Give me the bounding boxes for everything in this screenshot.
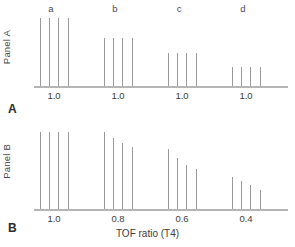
twitch-bar bbox=[104, 132, 105, 209]
twitch-bar bbox=[40, 18, 41, 86]
twitch-bar bbox=[168, 53, 169, 86]
x-tick-label: 1.0 bbox=[47, 91, 60, 101]
twitch-bar bbox=[104, 38, 105, 86]
twitch-bar bbox=[58, 132, 59, 209]
twitch-bar bbox=[49, 132, 50, 209]
twitch-bar bbox=[196, 169, 197, 209]
panel-a-axis-label: Panel A bbox=[2, 30, 12, 64]
twitch-bar bbox=[122, 38, 123, 86]
panel-a-plot-area bbox=[34, 18, 288, 86]
twitch-bar bbox=[177, 53, 178, 86]
group-letter-d: d bbox=[240, 4, 245, 14]
x-tick-label: 1.0 bbox=[239, 91, 252, 101]
panel-b-axis-line bbox=[34, 209, 288, 211]
twitch-bar bbox=[168, 149, 169, 209]
panel-b-plot-area bbox=[34, 132, 288, 209]
twitch-bar bbox=[260, 67, 261, 86]
x-tick-label: 0.4 bbox=[239, 214, 252, 224]
panel-a: Panel A A abcd1.01.01.01.0 bbox=[0, 0, 295, 122]
twitch-bar bbox=[132, 38, 133, 86]
twitch-bar bbox=[177, 158, 178, 209]
panel-a-axis-line bbox=[34, 86, 288, 88]
twitch-bar bbox=[250, 185, 251, 209]
twitch-bar bbox=[241, 67, 242, 86]
twitch-bar bbox=[186, 53, 187, 86]
x-tick-label: 0.6 bbox=[175, 214, 188, 224]
twitch-bar bbox=[241, 181, 242, 209]
group-letter-a: a bbox=[48, 4, 53, 14]
twitch-bar bbox=[186, 165, 187, 209]
group-letter-b: b bbox=[112, 4, 117, 14]
twitch-bar bbox=[132, 147, 133, 209]
twitch-bar bbox=[58, 18, 59, 86]
twitch-bar bbox=[232, 67, 233, 86]
twitch-bar bbox=[68, 18, 69, 86]
x-tick-label: 1.0 bbox=[47, 214, 60, 224]
twitch-bar bbox=[196, 53, 197, 86]
twitch-bar bbox=[232, 177, 233, 209]
twitch-bar bbox=[40, 132, 41, 209]
panel-a-letter: A bbox=[8, 103, 17, 115]
twitch-bar bbox=[113, 138, 114, 209]
x-tick-label: 1.0 bbox=[175, 91, 188, 101]
x-axis-title: TOF ratio (T4) bbox=[0, 229, 295, 239]
x-tick-label: 1.0 bbox=[111, 91, 124, 101]
tof-figure: Panel A A abcd1.01.01.01.0 Panel B B 1.0… bbox=[0, 0, 295, 247]
twitch-bar bbox=[260, 190, 261, 209]
panel-b-axis-label: Panel B bbox=[2, 144, 12, 179]
group-letter-c: c bbox=[177, 4, 182, 14]
twitch-bar bbox=[113, 38, 114, 86]
twitch-bar bbox=[250, 67, 251, 86]
x-tick-label: 0.8 bbox=[111, 214, 124, 224]
twitch-bar bbox=[122, 143, 123, 209]
twitch-bar bbox=[68, 132, 69, 209]
twitch-bar bbox=[49, 18, 50, 86]
